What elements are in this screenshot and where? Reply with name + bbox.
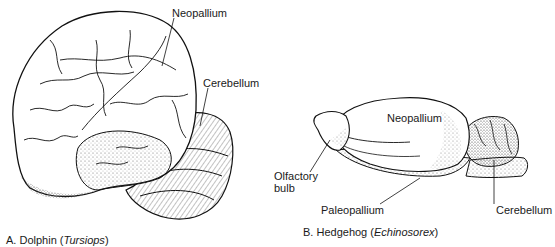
label-paleopallium: Paleopallium <box>321 204 384 217</box>
label-neopallium-dolphin: Neopallium <box>172 7 227 20</box>
label-cerebellum-hedgehog: Cerebellum <box>496 204 552 217</box>
caption-a-genus: Tursiops <box>64 234 105 246</box>
caption-a-close: ) <box>105 234 109 246</box>
caption-panel-b: B. Hedgehog (Echinosorex) <box>303 226 438 239</box>
caption-a-letter: A. <box>6 234 16 246</box>
caption-b-genus: Echinosorex <box>374 226 435 238</box>
caption-b-name: Hedgehog ( <box>316 226 374 238</box>
caption-b-letter: B. <box>303 226 313 238</box>
label-neopallium-hedgehog: Neopallium <box>387 112 442 125</box>
dolphin-brain <box>13 11 233 219</box>
caption-panel-a: A. Dolphin (Tursiops) <box>6 234 109 247</box>
label-olfactory-bulb-line2: bulb <box>274 182 295 195</box>
caption-a-name: Dolphin ( <box>19 234 63 246</box>
label-cerebellum-dolphin: Cerebellum <box>203 77 259 90</box>
caption-b-close: ) <box>435 226 439 238</box>
